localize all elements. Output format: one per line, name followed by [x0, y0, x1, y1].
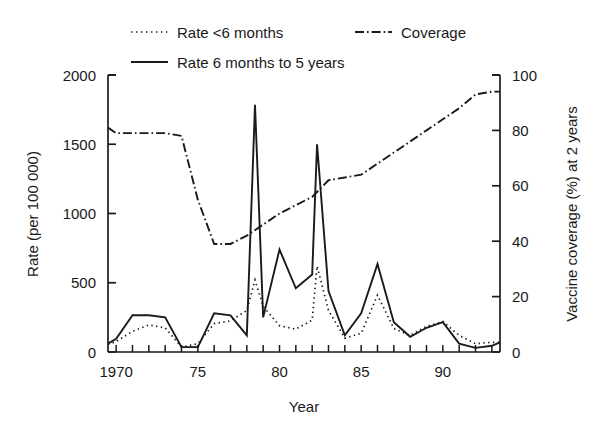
- x-axis-label: Year: [289, 398, 319, 415]
- y-axis-right-tick-label: 40: [512, 233, 529, 250]
- x-axis-tick-label: 80: [271, 363, 288, 380]
- y-axis-right-label: Vaccine coverage (%) at 2 years: [563, 106, 580, 322]
- y-axis-right-tick-label: 0: [512, 344, 520, 361]
- y-axis-right-tick-label: 100: [512, 67, 537, 84]
- y-axis-left-label: Rate (per 100 000): [24, 151, 41, 277]
- x-axis-tick-label: 1970: [99, 363, 132, 380]
- y-axis-left-tick-label: 500: [71, 274, 96, 291]
- y-axis-left-tick-label: 0: [88, 344, 96, 361]
- legend-label-rate-under-6-months: Rate <6 months: [177, 24, 283, 41]
- y-axis-left-tick-label: 1000: [63, 205, 96, 222]
- chart-figure: Rate <6 months Coverage Rate 6 months to…: [0, 0, 603, 430]
- y-axis-left-tick-label: 2000: [63, 67, 96, 84]
- y-axis-left-tick-label: 1500: [63, 136, 96, 153]
- y-axis-right-tick-label: 80: [512, 122, 529, 139]
- vaccine-coverage-and-rate-chart: Rate <6 months Coverage Rate 6 months to…: [0, 0, 603, 430]
- legend-label-coverage: Coverage: [401, 24, 466, 41]
- x-axis-tick-label: 75: [189, 363, 206, 380]
- x-axis-tick-label: 90: [434, 363, 451, 380]
- x-axis-tick-label: 85: [353, 363, 370, 380]
- y-axis-right-tick-label: 20: [512, 288, 529, 305]
- legend-label-rate-6-months-to-5-years: Rate 6 months to 5 years: [177, 54, 345, 71]
- y-axis-right-tick-label: 60: [512, 177, 529, 194]
